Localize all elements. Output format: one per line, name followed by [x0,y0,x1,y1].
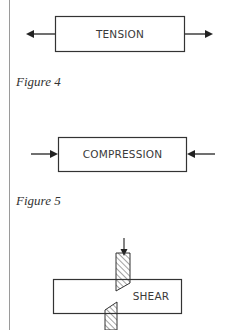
figure-4-caption: Figure 4 [16,74,61,90]
lower-shear-blade [105,302,117,330]
stress-diagrams [0,0,232,330]
tension-label: TENSION [55,28,185,40]
arrow-left-icon [187,150,195,158]
arrow-right-icon [205,30,213,38]
compression-label: COMPRESSION [58,148,187,160]
figure-5-caption: Figure 5 [16,193,61,209]
upper-shear-blade [116,253,130,291]
arrow-left-icon [26,30,34,38]
shear-diagram [54,238,182,330]
shear-label: SHEAR [131,290,171,302]
arrow-right-icon [50,150,58,158]
